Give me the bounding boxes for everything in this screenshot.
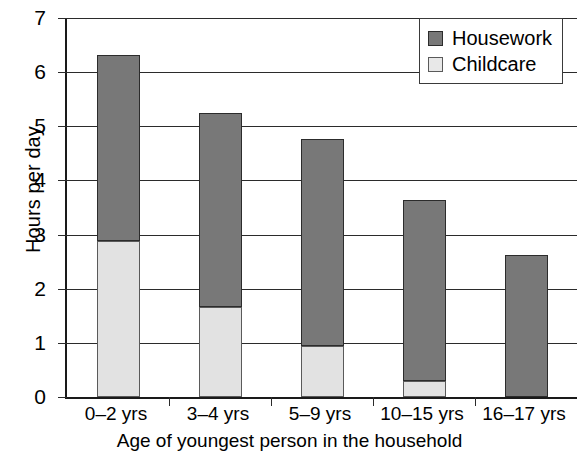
x-tick-label: 3–4 yrs	[167, 404, 269, 424]
y-tick-label: 5	[20, 115, 46, 136]
y-tick-label: 0	[20, 386, 46, 407]
y-tick-mark	[58, 235, 67, 236]
y-tick-label: 1	[20, 332, 46, 353]
bar-segment-childcare[interactable]	[199, 307, 242, 397]
legend-item[interactable]: Childcare	[428, 51, 552, 77]
x-tick-label: 16–17 yrs	[473, 404, 575, 424]
bar-group[interactable]	[301, 18, 344, 397]
x-tick-label: 5–9 yrs	[269, 404, 371, 424]
y-tick-mark	[58, 72, 67, 73]
y-tick-label: 2	[20, 278, 46, 299]
y-tick-mark	[58, 180, 67, 181]
legend-item[interactable]: Housework	[428, 25, 552, 51]
y-tick-label: 6	[20, 61, 46, 82]
y-tick-label: 7	[20, 7, 46, 28]
y-tick-mark	[58, 343, 67, 344]
y-tick-label: 3	[20, 224, 46, 245]
bar-segment-childcare[interactable]	[301, 346, 344, 397]
y-tick-mark	[58, 289, 67, 290]
bar-segment-housework[interactable]	[97, 55, 140, 241]
y-axis-tick-labels: 01234567	[20, 0, 46, 474]
y-tick-mark	[58, 18, 67, 19]
bar-segment-housework[interactable]	[505, 255, 548, 397]
bar-segment-housework[interactable]	[199, 113, 242, 307]
y-tick-mark	[58, 397, 67, 398]
x-tick-label: 10–15 yrs	[371, 404, 473, 424]
chart-legend: HouseworkChildcare	[419, 18, 563, 84]
bar-group[interactable]	[199, 18, 242, 397]
bar-group[interactable]	[97, 18, 140, 397]
legend-label: Housework	[452, 28, 552, 48]
bar-segment-childcare[interactable]	[403, 381, 446, 397]
y-tick-label: 4	[20, 169, 46, 190]
y-tick-mark	[58, 126, 67, 127]
bar-segment-childcare[interactable]	[97, 241, 140, 397]
bar-segment-housework[interactable]	[403, 200, 446, 380]
dark-gray-swatch-icon	[428, 31, 443, 46]
x-axis-title: Age of youngest person in the household	[0, 430, 579, 452]
light-gray-swatch-icon	[428, 57, 443, 72]
stacked-bar-chart: Hours per day 01234567 0–2 yrs3–4 yrs5–9…	[0, 0, 579, 474]
legend-label: Childcare	[452, 54, 536, 74]
bar-segment-housework[interactable]	[301, 139, 344, 346]
x-tick-label: 0–2 yrs	[65, 404, 167, 424]
